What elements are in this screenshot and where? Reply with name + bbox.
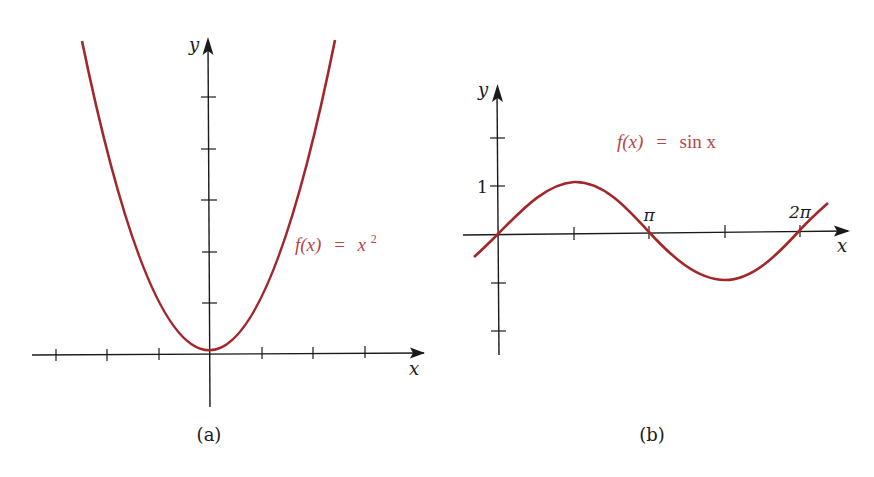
superscript-exponent: 2 xyxy=(371,232,377,246)
x-axis-label: x xyxy=(837,235,847,256)
equals-sign: = xyxy=(656,131,667,152)
x-tick-label-2pi: 2π xyxy=(788,202,812,222)
caption-b: (b) xyxy=(639,424,665,445)
panel-b: 1 π 2π y x f(x) = sin x (b) xyxy=(463,79,850,445)
function-name: f(x) xyxy=(295,234,321,256)
panel-a: y x f(x) = x 2 (a) xyxy=(32,34,425,445)
equals-sign: = xyxy=(334,234,345,255)
y-axis-label: y xyxy=(477,79,489,100)
function-body: x xyxy=(357,234,367,255)
function-body: sin x xyxy=(680,131,717,152)
y-axis-label: y xyxy=(188,34,200,55)
x-axis xyxy=(463,231,848,235)
function-label-b: f(x) = sin x xyxy=(617,131,717,153)
figure: y x f(x) = x 2 (a) xyxy=(0,0,874,477)
y-tick-label-1: 1 xyxy=(477,177,488,197)
y-axis xyxy=(497,90,499,355)
function-name: f(x) xyxy=(617,131,643,153)
function-label-a: f(x) = x 2 xyxy=(295,232,377,256)
x-tick-label-pi: π xyxy=(642,205,655,225)
sine-curve xyxy=(474,182,828,280)
caption-a: (a) xyxy=(197,424,222,445)
x-axis-label: x xyxy=(409,358,419,379)
